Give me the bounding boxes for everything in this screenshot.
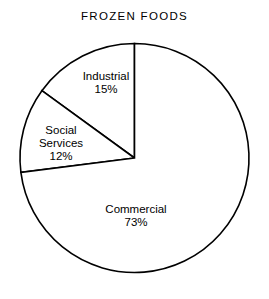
slice-label-commercial: Commercial 73% [86, 203, 186, 229]
slice-label-social-services: Social Services 12% [11, 124, 111, 164]
slice-label-commercial-name: Commercial [86, 203, 186, 216]
pie-chart-figure: FROZEN FOODS Industrial 15% Social Servi… [0, 0, 269, 299]
slice-label-industrial: Industrial 15% [56, 70, 156, 96]
slice-label-social-services-value: 12% [11, 150, 111, 163]
slice-label-industrial-name: Industrial [56, 70, 156, 83]
slice-label-commercial-value: 73% [86, 216, 186, 229]
slice-label-industrial-value: 15% [56, 83, 156, 96]
slice-label-social-services-name: Social Services [11, 124, 111, 150]
